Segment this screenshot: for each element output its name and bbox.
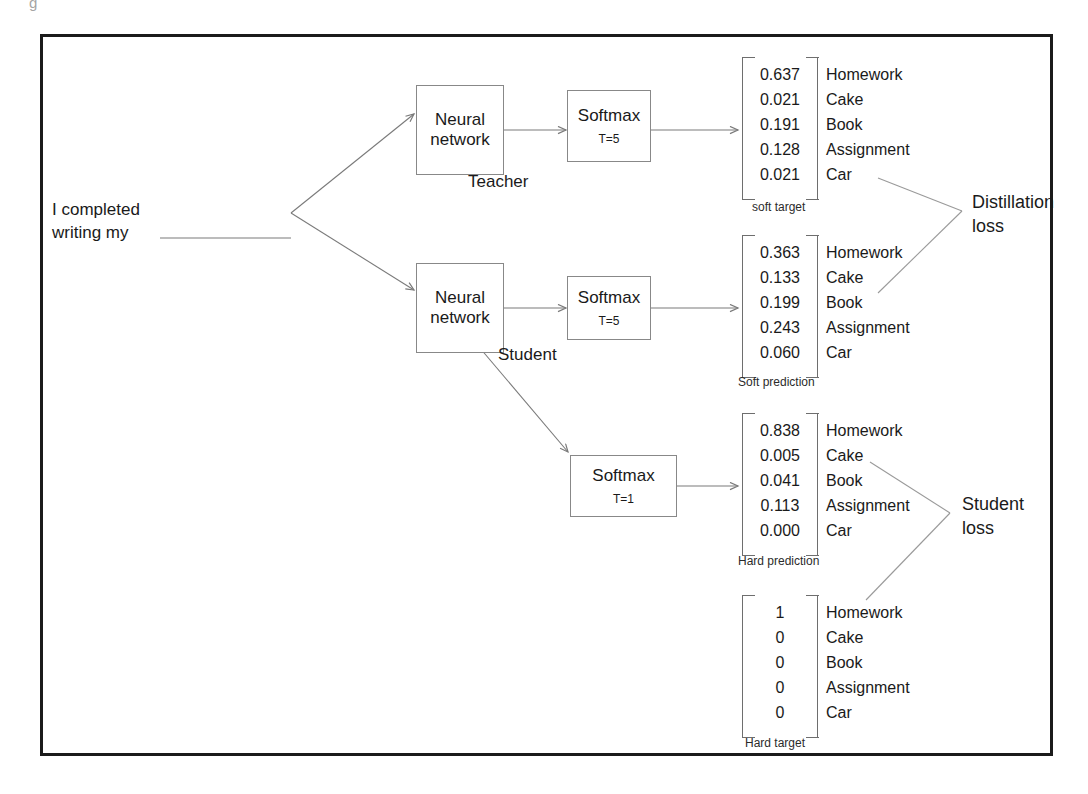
caption-hard-target: Hard target xyxy=(745,736,805,750)
vector-row: 0 Assignment xyxy=(742,679,910,704)
vector-class-label: Assignment xyxy=(818,319,910,337)
vector-class-label: Cake xyxy=(818,269,863,287)
vector-row: 0.021 Car xyxy=(742,166,910,191)
vector-row: 0.191 Book xyxy=(742,116,910,141)
vector-row: 0.133 Cake xyxy=(742,269,910,294)
vector-value: 0.000 xyxy=(742,522,818,540)
vector-class-label: Homework xyxy=(818,66,902,84)
student-softmax-temperature: T=5 xyxy=(598,313,619,329)
student-hard-softmax-box[interactable]: Softmax T=1 xyxy=(570,455,677,517)
teacher-role-label: Teacher xyxy=(468,172,528,192)
vector-hard-prediction: 0.838 Homework 0.005 Cake 0.041 Book 0.1… xyxy=(742,413,910,556)
vector-value: 0.363 xyxy=(742,244,818,262)
vector-class-label: Assignment xyxy=(818,141,910,159)
vector-value: 0.021 xyxy=(742,166,818,184)
vector-class-label: Homework xyxy=(818,604,902,622)
vector-value: 0 xyxy=(742,654,818,672)
student-hard-softmax-label: Softmax xyxy=(592,466,654,486)
vector-value: 0.113 xyxy=(742,497,818,515)
vector-class-label: Cake xyxy=(818,629,863,647)
vector-row: 0.021 Cake xyxy=(742,91,910,116)
teacher-neural-network-box[interactable]: Neural network xyxy=(416,85,504,175)
input-prompt-text: I completed writing my xyxy=(52,198,140,244)
vector-class-label: Homework xyxy=(818,244,902,262)
vector-hard-target: 1 Homework 0 Cake 0 Book 0 Assignment 0 … xyxy=(742,595,910,738)
student-softmax-label: Softmax xyxy=(578,288,640,308)
vector-row: 0.005 Cake xyxy=(742,447,910,472)
student-neural-network-label: Neural network xyxy=(430,288,490,328)
vector-row: 0.128 Assignment xyxy=(742,141,910,166)
student-neural-network-box[interactable]: Neural network xyxy=(416,263,504,353)
vector-row: 0.000 Car xyxy=(742,522,910,547)
teacher-softmax-temperature: T=5 xyxy=(598,131,619,147)
vector-value: 0.637 xyxy=(742,66,818,84)
vector-value: 0.021 xyxy=(742,91,818,109)
vector-class-label: Car xyxy=(818,344,852,362)
vector-row: 1 Homework xyxy=(742,604,910,629)
teacher-softmax-box[interactable]: Softmax T=5 xyxy=(567,90,651,162)
vector-class-label: Car xyxy=(818,522,852,540)
vector-value: 0.199 xyxy=(742,294,818,312)
vector-class-label: Car xyxy=(818,704,852,722)
student-loss-label: Student loss xyxy=(962,492,1024,540)
vector-class-label: Assignment xyxy=(818,497,910,515)
teacher-neural-network-label: Neural network xyxy=(430,110,490,150)
vector-class-label: Book xyxy=(818,472,862,490)
vector-value: 0.041 xyxy=(742,472,818,490)
vector-value: 0.060 xyxy=(742,344,818,362)
caption-soft-target: soft target xyxy=(752,200,805,214)
vector-class-label: Cake xyxy=(818,91,863,109)
vector-soft-prediction: 0.363 Homework 0.133 Cake 0.199 Book 0.2… xyxy=(742,235,910,378)
vector-row: 0.363 Homework xyxy=(742,244,910,269)
vector-row: 0.199 Book xyxy=(742,294,910,319)
vector-value: 1 xyxy=(742,604,818,622)
vector-row: 0.243 Assignment xyxy=(742,319,910,344)
vector-value: 0.133 xyxy=(742,269,818,287)
vector-row: 0.637 Homework xyxy=(742,66,910,91)
vector-value: 0 xyxy=(742,704,818,722)
vector-value: 0.243 xyxy=(742,319,818,337)
vector-value: 0.191 xyxy=(742,116,818,134)
vector-soft-target: 0.637 Homework 0.021 Cake 0.191 Book 0.1… xyxy=(742,57,910,200)
cropped-text-fragment: g xyxy=(29,0,38,11)
caption-hard-prediction: Hard prediction xyxy=(738,554,819,568)
vector-value: 0 xyxy=(742,679,818,697)
vector-row: 0 Cake xyxy=(742,629,910,654)
distillation-loss-label: Distillation loss xyxy=(972,190,1054,238)
vector-value: 0.838 xyxy=(742,422,818,440)
student-hard-softmax-temperature: T=1 xyxy=(613,491,634,507)
vector-class-label: Assignment xyxy=(818,679,910,697)
vector-class-label: Book xyxy=(818,654,862,672)
vector-class-label: Cake xyxy=(818,447,863,465)
vector-value: 0 xyxy=(742,629,818,647)
student-softmax-box[interactable]: Softmax T=5 xyxy=(567,276,651,340)
teacher-softmax-label: Softmax xyxy=(578,106,640,126)
vector-row: 0 Car xyxy=(742,704,910,729)
vector-row: 0.113 Assignment xyxy=(742,497,910,522)
vector-class-label: Book xyxy=(818,294,862,312)
figure-canvas: g I completed writing my xyxy=(0,0,1088,794)
vector-class-label: Car xyxy=(818,166,852,184)
vector-row: 0.060 Car xyxy=(742,344,910,369)
vector-value: 0.005 xyxy=(742,447,818,465)
vector-value: 0.128 xyxy=(742,141,818,159)
vector-class-label: Homework xyxy=(818,422,902,440)
vector-row: 0 Book xyxy=(742,654,910,679)
student-role-label: Student xyxy=(498,345,557,365)
vector-row: 0.838 Homework xyxy=(742,422,910,447)
vector-class-label: Book xyxy=(818,116,862,134)
caption-soft-prediction: Soft prediction xyxy=(738,375,815,389)
vector-row: 0.041 Book xyxy=(742,472,910,497)
